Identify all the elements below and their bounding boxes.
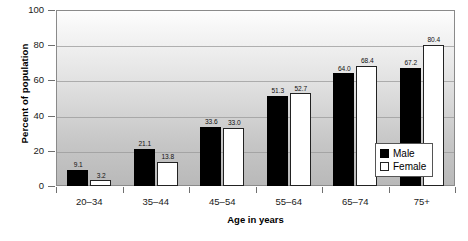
x-axis-tick-label: 45–54 (187, 196, 257, 207)
bar-group: 9.13.2 (67, 10, 111, 186)
legend-item-female: Female (380, 160, 426, 173)
y-axis-tick (48, 45, 55, 46)
bar-value-label: 21.1 (128, 141, 162, 148)
bar-value-label: 33.0 (217, 120, 251, 127)
legend: Male Female (375, 143, 433, 177)
y-axis-tick-label: 80 (0, 39, 44, 50)
x-axis-tick-label: 75+ (387, 196, 457, 207)
bar-female (157, 162, 178, 186)
y-axis-tick (48, 151, 55, 152)
bar-female (90, 180, 111, 186)
x-axis-tick-label: 55–64 (254, 196, 324, 207)
x-axis-tick (455, 187, 456, 193)
x-axis-tick-label: 20–34 (54, 196, 124, 207)
bar-value-label: 80.4 (417, 37, 451, 44)
x-axis-tick-label: 65–74 (320, 196, 390, 207)
bar-group: 21.113.8 (134, 10, 178, 186)
bar-female (290, 93, 311, 186)
bar-value-label: 3.2 (84, 173, 118, 180)
x-axis-tick (256, 187, 257, 193)
bar-value-label: 52.7 (284, 86, 318, 93)
x-axis-tick (123, 187, 124, 193)
x-axis-title: Age in years (56, 214, 455, 225)
bar-chart: Percent of population 020406080100 9.13.… (0, 0, 468, 241)
bar-group: 33.633.0 (200, 10, 244, 186)
x-axis-tick (389, 187, 390, 193)
legend-swatch-female-icon (380, 162, 389, 171)
y-axis-tick-label: 40 (0, 110, 44, 121)
y-axis-tick-label: 100 (0, 4, 44, 15)
bar-female (223, 128, 244, 186)
bar-male (200, 127, 221, 186)
y-axis-tick (48, 186, 55, 187)
bar-value-label: 9.1 (61, 162, 95, 169)
legend-label-male: Male (393, 148, 415, 159)
legend-item-male: Male (380, 147, 426, 160)
y-axis-tick (48, 80, 55, 81)
bar-male (267, 96, 288, 186)
y-axis-tick-label: 20 (0, 145, 44, 156)
bar-male (333, 73, 354, 186)
bar-group: 51.352.7 (267, 10, 311, 186)
x-axis-tick-label: 35–44 (121, 196, 191, 207)
y-axis-tick (48, 116, 55, 117)
legend-swatch-male-icon (380, 149, 389, 158)
bar-value-label: 68.4 (350, 58, 384, 65)
y-axis-tick-label: 0 (0, 180, 44, 191)
x-axis-tick (56, 187, 57, 193)
x-axis-tick (322, 187, 323, 193)
y-axis-tick (48, 10, 55, 11)
bar-value-label: 13.8 (151, 154, 185, 161)
bar-group: 64.068.4 (333, 10, 377, 186)
y-axis-tick-label: 60 (0, 74, 44, 85)
legend-label-female: Female (393, 161, 426, 172)
x-axis-tick (189, 187, 190, 193)
